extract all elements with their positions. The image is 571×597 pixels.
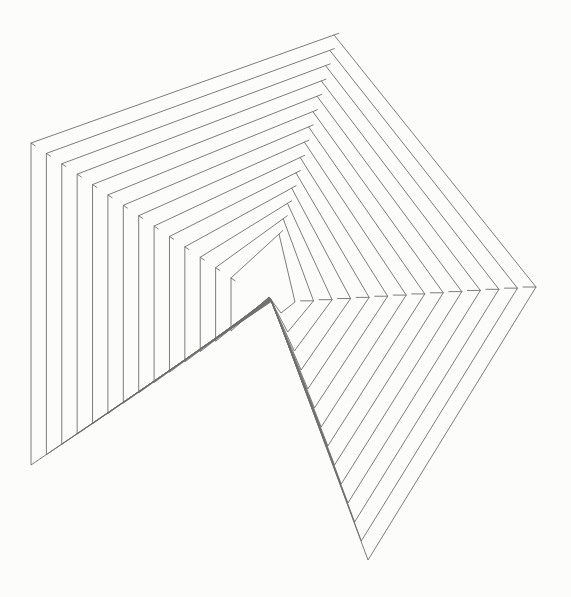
paper-background	[0, 0, 571, 597]
line-art-stage	[0, 0, 571, 597]
nested-polygon-drawing	[0, 0, 571, 597]
